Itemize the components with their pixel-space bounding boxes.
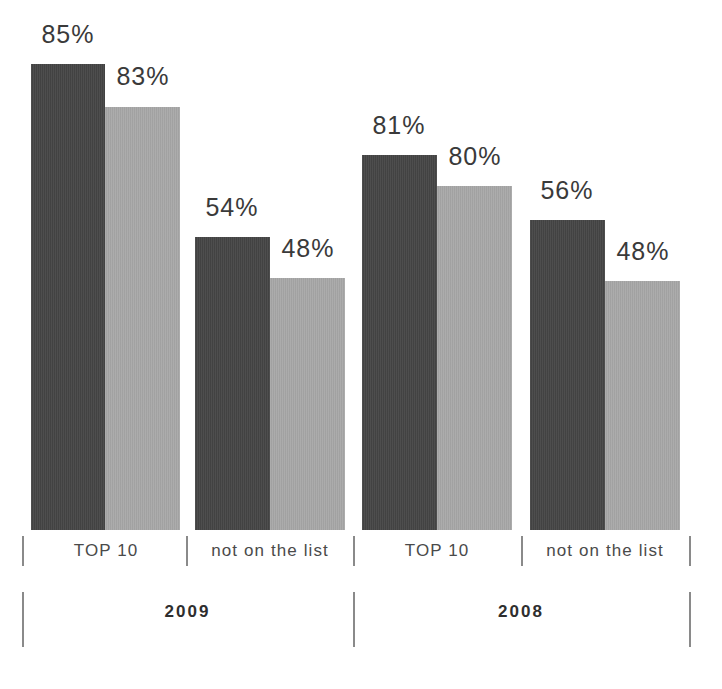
tick-group-left: [22, 592, 24, 647]
tick-category-right: [689, 536, 691, 566]
tick-category-mid-2: [353, 536, 355, 566]
category-label-2008-notonlist: not on the list: [530, 541, 680, 561]
bar-2008-notonlist-light: [605, 281, 680, 530]
bar-chart: 85% 83% 54% 48% 81% 80% 56% 48% TOP 10 n…: [0, 0, 722, 689]
category-label-2008-top10: TOP 10: [362, 541, 512, 561]
category-label-2009-top10: TOP 10: [31, 541, 181, 561]
group-label-2009: 2009: [22, 602, 353, 622]
value-label-2009-notonlist-dark: 54%: [187, 193, 277, 222]
value-label-2008-notonlist-light: 48%: [598, 237, 688, 266]
bar-2009-notonlist-dark: [195, 237, 270, 530]
group-axis: 2009 2008: [0, 588, 722, 689]
value-label-2009-notonlist-light: 48%: [263, 234, 353, 263]
bar-2008-top10-light: [437, 186, 512, 530]
category-axis: TOP 10 not on the list TOP 10 not on the…: [0, 530, 722, 588]
value-label-2008-top10-dark: 81%: [354, 111, 444, 140]
tick-group-mid: [353, 592, 355, 647]
bar-2009-top10-dark: [31, 64, 105, 530]
tick-category-mid-3: [521, 536, 523, 566]
value-label-2008-top10-light: 80%: [430, 142, 520, 171]
value-label-2008-notonlist-dark: 56%: [522, 176, 612, 205]
bar-2008-notonlist-dark: [530, 220, 605, 530]
bar-2009-notonlist-light: [270, 278, 345, 530]
bar-2009-top10-light: [105, 107, 180, 530]
group-label-2008: 2008: [353, 602, 689, 622]
bar-2008-top10-dark: [362, 155, 437, 530]
tick-group-right: [689, 592, 691, 647]
value-label-2009-top10-light: 83%: [98, 62, 188, 91]
value-label-2009-top10-dark: 85%: [23, 20, 113, 49]
tick-category-left: [22, 536, 24, 566]
category-label-2009-notonlist: not on the list: [195, 541, 345, 561]
plot-area: 85% 83% 54% 48% 81% 80% 56% 48%: [0, 0, 722, 530]
tick-category-mid-1: [186, 536, 188, 566]
